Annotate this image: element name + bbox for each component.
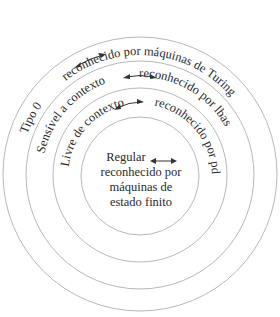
center-line-4: estado finito [86, 195, 196, 210]
center-line-2: reconhecido por [86, 165, 196, 180]
center-line-1: Regular [86, 150, 196, 165]
center-line-3: máquinas de [86, 180, 196, 195]
center-regular-label: Regular reconhecido por máquinas de esta… [86, 150, 196, 210]
